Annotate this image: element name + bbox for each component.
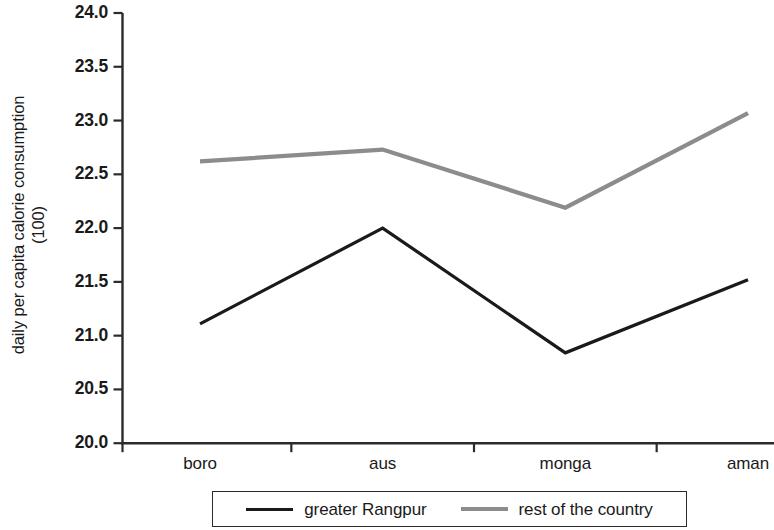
legend-item-label: rest of the country <box>519 501 653 518</box>
gray-line-swatch <box>461 507 508 511</box>
data-series-line <box>200 228 748 353</box>
plot-area <box>0 0 774 530</box>
black-line-swatch <box>246 508 293 511</box>
legend-item[interactable]: greater Rangpur <box>246 501 426 518</box>
chart-legend: greater Rangpurrest of the country <box>212 491 687 527</box>
y-axis-tick-marks <box>114 13 123 443</box>
line-chart-figure: daily per capita calorie consumption (10… <box>0 0 774 530</box>
legend-item-label: greater Rangpur <box>304 501 426 518</box>
x-axis-tick-marks <box>123 443 657 452</box>
axis-lines <box>121 13 774 444</box>
data-series-line <box>200 113 748 208</box>
legend-item[interactable]: rest of the country <box>461 501 653 518</box>
data-series-group <box>200 113 748 353</box>
